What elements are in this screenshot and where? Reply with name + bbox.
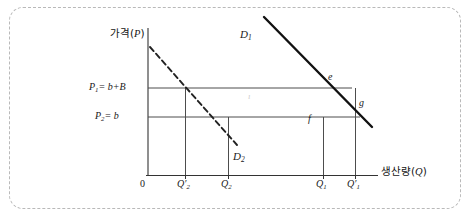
y-axis-label: 가격(P) <box>110 28 145 40</box>
price-label-p1: P1= b+B <box>89 82 126 93</box>
point-label-f: f <box>308 114 311 124</box>
tick-label-q2prime: Q′2 <box>177 179 190 190</box>
tick-label-q1prime: Q′1 <box>347 179 360 190</box>
price-label-p2: P2= b <box>95 111 119 122</box>
demand-curve-d2 <box>150 47 237 145</box>
curve-label-d1: D1 <box>240 29 252 41</box>
faint-artifact-mark: ı <box>248 91 251 101</box>
demand-curve-d1 <box>264 17 372 127</box>
x-axis-label: 생산량(Q) <box>381 166 427 178</box>
origin-label: 0 <box>140 179 145 189</box>
point-label-g: g <box>359 98 364 108</box>
tick-label-q1: Q1 <box>316 179 327 190</box>
curve-label-d2: D2 <box>233 151 245 163</box>
diagram-svg <box>0 0 472 218</box>
point-label-e: e <box>328 72 332 82</box>
tick-label-q2: Q2 <box>221 179 232 190</box>
figure-canvas: 가격(P) 생산량(Q) P1= b+B P2= b 0 Q′2 Q2 Q1 Q… <box>0 0 472 218</box>
